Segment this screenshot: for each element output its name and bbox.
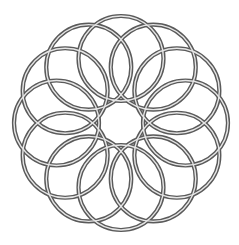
rosette-figure [0,0,239,245]
circle-inner-lines [14,16,228,230]
overlapping-circles-rosette [0,0,239,245]
circle-outlines [14,16,228,230]
